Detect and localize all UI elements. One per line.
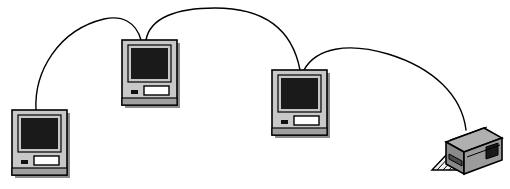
base-strip xyxy=(12,168,67,175)
node-printer-1[interactable] xyxy=(432,127,502,174)
node-computer-2[interactable] xyxy=(122,40,180,108)
node-computer-3[interactable] xyxy=(272,70,330,138)
power-indicator xyxy=(21,160,28,164)
cable-group xyxy=(36,8,466,130)
display xyxy=(131,48,168,79)
floppy-disk-slot[interactable] xyxy=(294,116,319,125)
network-diagram-canvas: AppleTalk network: three Macintosh compu… xyxy=(0,0,510,189)
power-indicator xyxy=(281,120,288,124)
display xyxy=(281,78,318,109)
power-indicator xyxy=(131,90,138,94)
node-computer-1[interactable] xyxy=(12,110,70,178)
network-diagram xyxy=(0,0,510,189)
floppy-disk-slot[interactable] xyxy=(34,156,59,165)
display xyxy=(21,118,58,149)
base-strip xyxy=(272,128,327,135)
floppy-disk-slot[interactable] xyxy=(144,86,169,95)
base-strip xyxy=(122,98,177,105)
